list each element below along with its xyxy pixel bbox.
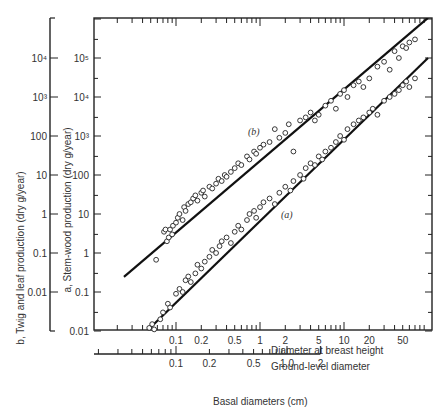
data-point — [301, 176, 306, 181]
x-tick-label: 50 — [397, 335, 409, 346]
data-point — [298, 118, 303, 123]
data-point — [195, 198, 200, 203]
data-point — [351, 122, 356, 127]
data-point — [303, 166, 308, 171]
data-point — [308, 110, 313, 115]
data-point — [404, 46, 409, 51]
data-point — [239, 227, 244, 232]
y-tick-label: 1 — [83, 248, 89, 259]
data-point — [267, 196, 272, 201]
y-tick-label: 0.1 — [75, 287, 89, 298]
y-tick-label: 10 — [78, 209, 90, 220]
x-tick-label: 0.1 — [169, 335, 183, 346]
data-point — [261, 200, 266, 205]
data-point — [286, 122, 291, 127]
data-point — [338, 134, 343, 139]
y-outer-tick-label: 0.01 — [28, 287, 48, 298]
data-point — [413, 76, 418, 81]
data-point — [199, 266, 204, 271]
y-inner-axis-title: a, Stem-wood production (dry g/year) — [62, 127, 73, 292]
data-point — [232, 229, 237, 234]
data-point — [207, 254, 212, 259]
data-point — [228, 241, 233, 246]
data-point — [170, 232, 175, 237]
data-point — [272, 127, 277, 132]
data-point — [361, 115, 366, 120]
data-point — [224, 235, 229, 240]
data-point — [224, 174, 229, 179]
data-point — [219, 179, 224, 184]
data-point — [303, 115, 308, 120]
x-ground-axis-title: Ground-level diameter — [271, 361, 371, 372]
data-point — [396, 88, 401, 93]
data-point — [180, 218, 185, 223]
data-point — [351, 83, 356, 88]
data-point — [232, 166, 237, 171]
data-point — [272, 202, 277, 207]
data-point — [370, 106, 375, 111]
data-point — [283, 131, 288, 136]
data-point — [345, 95, 350, 100]
data-point — [261, 142, 266, 147]
y-outer-tick-label: 10⁴ — [32, 53, 47, 64]
data-point — [283, 184, 288, 189]
x-ground-tick-label: 0.2 — [202, 358, 216, 369]
data-point — [202, 194, 207, 199]
data-point — [239, 163, 244, 168]
data-point — [252, 209, 257, 214]
y-outer-tick-label: 10 — [36, 170, 48, 181]
data-point — [316, 112, 321, 117]
x-ground-tick-label: 0.5 — [247, 358, 261, 369]
data-point — [392, 49, 397, 54]
series-a-label: (a) — [281, 209, 293, 221]
data-point — [413, 37, 418, 42]
data-point — [228, 170, 233, 175]
data-point — [152, 327, 157, 332]
data-point — [407, 85, 412, 90]
data-point — [375, 64, 380, 69]
data-point — [214, 181, 219, 186]
data-point — [174, 220, 179, 225]
data-point — [345, 127, 350, 132]
y-axis-twig-leaf: 0.010.111010010³10⁴ — [28, 18, 58, 331]
data-point — [177, 212, 182, 217]
data-point — [245, 218, 250, 223]
data-point — [277, 190, 282, 195]
data-point — [163, 227, 168, 232]
data-point — [387, 67, 392, 72]
data-point — [247, 212, 252, 217]
data-point — [329, 145, 334, 150]
data-point — [356, 118, 361, 123]
data-point — [320, 157, 325, 162]
data-point — [387, 95, 392, 100]
data-point — [323, 103, 328, 108]
x-main-axis-title: Basal diameters (cm) — [213, 396, 307, 407]
data-point — [158, 317, 163, 322]
chart: 0.010.111010010³10⁴ 0.010.111010010³10⁴1… — [0, 0, 445, 410]
data-point — [367, 76, 372, 81]
x-ground-tick-label: 0.1 — [169, 358, 183, 369]
data-point — [193, 271, 198, 276]
data-point — [174, 291, 179, 296]
series-b-label: (b) — [248, 126, 260, 138]
data-point — [382, 59, 387, 64]
y-tick-label: 0.01 — [70, 326, 90, 337]
data-point — [323, 149, 328, 154]
data-point — [392, 92, 397, 97]
data-point — [180, 290, 185, 295]
data-point — [375, 112, 380, 117]
data-point — [312, 118, 317, 123]
data-point — [193, 193, 198, 198]
y-outer-axis-title: b, Twig and leaf production (dry g/year) — [15, 171, 26, 344]
data-point — [407, 40, 412, 45]
data-point — [312, 163, 317, 168]
y-tick-label: 100 — [72, 170, 89, 181]
data-point — [254, 215, 259, 220]
data-point — [219, 239, 224, 244]
data-point — [188, 280, 193, 285]
data-point — [288, 188, 293, 193]
data-point — [277, 135, 282, 140]
data-point — [217, 244, 222, 249]
y-tick-label: 10⁵ — [74, 53, 89, 64]
data-point — [183, 209, 188, 214]
